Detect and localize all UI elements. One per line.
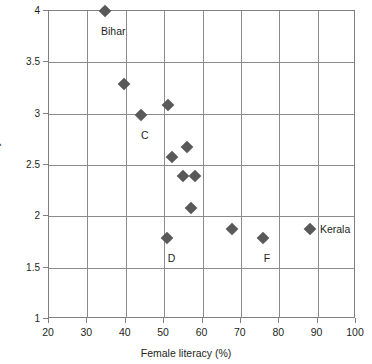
- data-point-marker: [181, 140, 194, 153]
- x-tick-mark: [278, 318, 279, 323]
- gridline-horizontal: [49, 216, 354, 217]
- y-tick-mark: [43, 61, 48, 62]
- data-point-marker: [177, 170, 190, 183]
- data-point-label: D: [168, 252, 176, 264]
- gridline-vertical: [279, 11, 280, 317]
- data-point-marker: [304, 222, 317, 235]
- gridline-vertical: [241, 11, 242, 317]
- gridline-horizontal: [49, 268, 354, 269]
- plot-area: BiharCDFKerala: [48, 10, 355, 318]
- y-tick-label: 3: [10, 107, 40, 118]
- x-tick-label: 80: [272, 326, 284, 338]
- y-axis-title: Fertility: [0, 141, 1, 175]
- x-tick-mark: [240, 318, 241, 323]
- data-point-label: F: [264, 252, 270, 264]
- scatter-plot-figure: BiharCDFKerala 11.522.533.54203040506070…: [0, 0, 372, 364]
- x-tick-label: 100: [346, 326, 364, 338]
- x-tick-label: 90: [311, 326, 323, 338]
- x-tick-label: 30: [81, 326, 93, 338]
- gridline-vertical: [126, 11, 127, 317]
- y-tick-label: 3.5: [10, 56, 40, 67]
- x-tick-label: 40: [119, 326, 131, 338]
- y-tick-label: 1: [10, 313, 40, 324]
- data-point-label: Bihar: [101, 25, 126, 37]
- gridline-vertical: [203, 11, 204, 317]
- gridline-vertical: [87, 11, 88, 317]
- y-tick-label: 1.5: [10, 261, 40, 272]
- data-point-marker: [188, 170, 201, 183]
- gridline-horizontal: [49, 114, 354, 115]
- y-tick-label: 2.5: [10, 159, 40, 170]
- data-point-marker: [99, 5, 112, 18]
- x-tick-label: 50: [157, 326, 169, 338]
- data-point-marker: [160, 232, 173, 245]
- y-tick-mark: [43, 113, 48, 114]
- y-tick-label: 4: [10, 5, 40, 16]
- data-point-marker: [135, 108, 148, 121]
- data-point-marker: [256, 232, 269, 245]
- y-tick-mark: [43, 267, 48, 268]
- x-tick-label: 70: [234, 326, 246, 338]
- x-tick-mark: [48, 318, 49, 323]
- x-tick-mark: [125, 318, 126, 323]
- data-point-label: Kerala: [320, 223, 350, 235]
- x-tick-label: 20: [42, 326, 54, 338]
- data-point-marker: [226, 222, 239, 235]
- data-point-label: C: [141, 129, 149, 141]
- data-point-marker: [165, 150, 178, 163]
- gridline-horizontal: [49, 165, 354, 166]
- data-point-marker: [185, 202, 198, 215]
- x-tick-mark: [202, 318, 203, 323]
- x-tick-mark: [86, 318, 87, 323]
- y-tick-label: 2: [10, 210, 40, 221]
- x-axis-title: Female literacy (%): [0, 347, 372, 359]
- gridline-vertical: [164, 11, 165, 317]
- gridline-horizontal: [49, 62, 354, 63]
- y-tick-mark: [43, 10, 48, 11]
- x-tick-label: 60: [196, 326, 208, 338]
- x-tick-mark: [163, 318, 164, 323]
- x-tick-mark: [317, 318, 318, 323]
- y-tick-mark: [43, 164, 48, 165]
- data-point-marker: [117, 78, 130, 91]
- gridline-vertical: [318, 11, 319, 317]
- x-tick-mark: [355, 318, 356, 323]
- y-tick-mark: [43, 215, 48, 216]
